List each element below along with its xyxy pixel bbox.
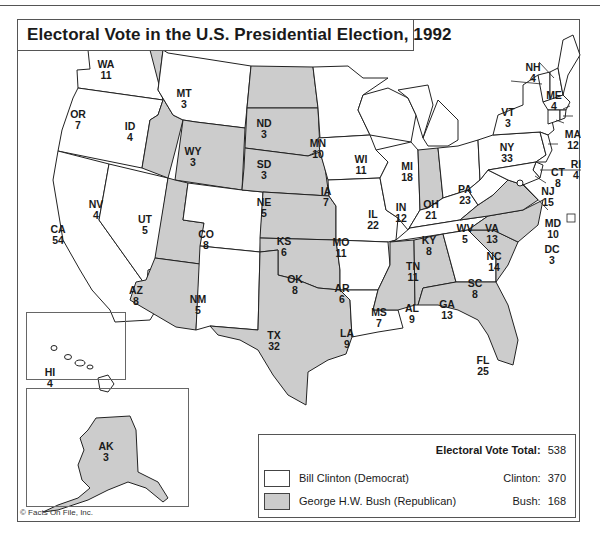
legend-swatch-bush (264, 493, 290, 510)
svg-text:VA13: VA13 (485, 222, 499, 245)
state-ri (560, 110, 566, 120)
legend-label-clinton: Bill Clinton (Democrat) (299, 472, 409, 484)
state-sd (245, 108, 320, 156)
top-rule (0, 5, 600, 6)
legend-total: Electoral Vote Total: 538 (436, 444, 566, 456)
legend-total-value: 538 (548, 444, 566, 456)
state-nd (247, 66, 318, 108)
svg-text:NJ15: NJ15 (541, 185, 555, 208)
svg-text:OH21: OH21 (423, 198, 439, 221)
svg-text:RI4: RI4 (571, 158, 581, 181)
svg-text:GA13: GA13 (439, 298, 455, 321)
svg-text:MN10: MN10 (310, 137, 326, 160)
map-title: Electoral Vote in the U.S. Presidential … (27, 25, 452, 45)
state-ia (318, 135, 388, 180)
state-ct (548, 110, 560, 124)
svg-text:MI18: MI18 (401, 160, 413, 183)
svg-text:IN12: IN12 (395, 201, 407, 224)
dc-star-icon (517, 180, 523, 186)
alaska-inset (26, 388, 189, 507)
svg-text:MD10: MD10 (545, 217, 562, 240)
svg-text:AL9: AL9 (405, 302, 420, 325)
svg-text:FL25: FL25 (477, 354, 490, 377)
state-fl (418, 282, 518, 365)
svg-text:DC3: DC3 (544, 243, 560, 266)
svg-text:WI11: WI11 (355, 153, 368, 176)
svg-text:MA12: MA12 (565, 128, 581, 151)
svg-text:NC14: NC14 (486, 250, 502, 273)
state-nm (196, 246, 260, 330)
hawaii-inset (26, 312, 126, 380)
svg-text:PA23: PA23 (458, 183, 472, 206)
title-box: Electoral Vote in the U.S. Presidential … (18, 20, 414, 51)
legend-count-clinton: Clinton: 370 (503, 472, 566, 484)
copyright: © Facts On File, Inc. (20, 508, 93, 517)
svg-text:TN11: TN11 (406, 260, 420, 283)
svg-text:IL22: IL22 (367, 208, 379, 231)
svg-text:NY33: NY33 (500, 141, 515, 164)
legend-swatch-clinton (264, 470, 290, 487)
legend-count-bush: Bush: 168 (512, 495, 566, 507)
state-me (558, 35, 580, 95)
dc-swatch (567, 214, 575, 222)
legend: Electoral Vote Total: 538 Bill Clinton (… (258, 434, 576, 518)
svg-text:TX32: TX32 (267, 329, 280, 352)
svg-text:CA54: CA54 (50, 223, 66, 246)
legend-label-bush: George H.W. Bush (Republican) (299, 495, 456, 507)
legend-total-label: Electoral Vote Total: (436, 444, 541, 456)
map-frame: WA11 OR7 CA54 NV4 ID4 MT3 WY3 UT5 CO8 AZ… (17, 19, 580, 522)
